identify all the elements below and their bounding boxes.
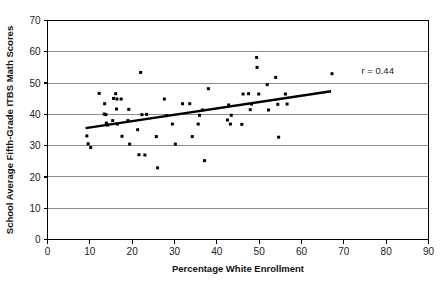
data-point-38	[203, 159, 206, 162]
data-point-22	[139, 71, 142, 74]
data-point-15	[120, 98, 123, 101]
xtick-label-90: 90	[423, 246, 435, 257]
x-axis-title: Percentage White Enrollment	[172, 263, 305, 274]
xtick-label-40: 40	[211, 246, 223, 257]
data-point-16	[121, 135, 124, 138]
ytick-label-40: 40	[29, 109, 41, 120]
data-point-42	[229, 123, 232, 126]
ytick-label-10: 10	[29, 203, 41, 214]
data-point-57	[284, 93, 287, 96]
xtick-label-80: 80	[381, 246, 393, 257]
data-point-30	[171, 123, 174, 126]
data-point-59	[330, 72, 333, 75]
data-point-2	[89, 146, 92, 149]
data-point-3	[98, 92, 101, 95]
data-point-55	[276, 103, 279, 106]
data-point-31	[174, 143, 177, 146]
data-point-39	[207, 87, 210, 90]
xtick-label-50: 50	[254, 246, 266, 257]
scatter-chart: 0102030405060700102030405060708090r = 0.…	[0, 0, 447, 282]
correlation-annotation: r = 0.44	[361, 65, 393, 76]
data-point-54	[274, 76, 277, 79]
ytick-label-50: 50	[29, 78, 41, 89]
data-point-34	[191, 135, 194, 138]
data-point-9	[111, 119, 114, 122]
data-point-12	[115, 108, 118, 111]
data-point-28	[163, 98, 166, 101]
data-point-11	[114, 92, 117, 95]
data-point-36	[198, 114, 201, 117]
data-point-21	[137, 153, 140, 156]
data-point-58	[286, 103, 289, 106]
data-point-32	[181, 102, 184, 105]
ytick-label-30: 30	[29, 140, 41, 151]
data-point-51	[257, 93, 260, 96]
xtick-label-30: 30	[169, 246, 181, 257]
data-point-6	[104, 113, 107, 116]
data-point-43	[230, 114, 233, 117]
data-point-52	[266, 83, 269, 86]
data-point-46	[247, 92, 250, 95]
data-point-13	[115, 98, 118, 101]
data-point-10	[112, 97, 115, 100]
data-point-0	[85, 134, 88, 137]
ytick-label-60: 60	[29, 46, 41, 57]
data-point-50	[256, 66, 259, 69]
xtick-label-0: 0	[45, 246, 51, 257]
data-point-44	[240, 123, 243, 126]
data-point-56	[277, 136, 280, 139]
data-point-23	[140, 113, 143, 116]
regression-trend-line	[86, 91, 332, 128]
data-point-20	[136, 128, 139, 131]
data-point-45	[242, 93, 245, 96]
chart-canvas: 0102030405060700102030405060708090r = 0.…	[0, 0, 447, 282]
data-point-26	[155, 135, 158, 138]
xtick-label-70: 70	[338, 246, 350, 257]
data-point-25	[145, 113, 148, 116]
data-point-24	[143, 154, 146, 157]
ytick-label-0: 0	[35, 234, 41, 245]
data-point-1	[87, 142, 90, 145]
data-point-19	[128, 143, 131, 146]
data-point-5	[103, 102, 106, 105]
data-point-40	[226, 118, 229, 121]
xtick-label-20: 20	[127, 246, 139, 257]
data-point-18	[127, 108, 130, 111]
data-point-33	[188, 102, 191, 105]
ytick-label-20: 20	[29, 172, 41, 183]
data-point-49	[255, 56, 258, 59]
data-point-35	[197, 123, 200, 126]
xtick-label-60: 60	[296, 246, 308, 257]
data-point-47	[249, 108, 252, 111]
xtick-label-10: 10	[84, 246, 96, 257]
data-point-27	[156, 166, 159, 169]
ytick-label-70: 70	[29, 15, 41, 26]
data-point-53	[267, 108, 270, 111]
y-axis-title: School Average Fifth-Grade ITBS Math Sco…	[4, 26, 15, 234]
plot-area-border	[48, 21, 429, 240]
